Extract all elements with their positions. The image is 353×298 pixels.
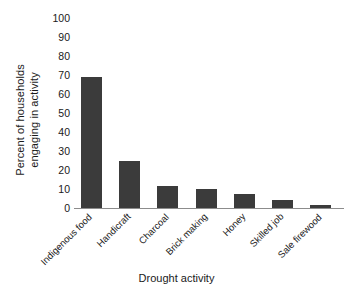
- y-axis-tick-label: 30: [44, 146, 70, 157]
- y-axis-tick-label: 90: [44, 32, 70, 43]
- y-axis-tick-label: 100: [44, 13, 70, 24]
- x-axis-tick-label: Handicraft: [95, 212, 132, 249]
- y-axis-tick-label: 10: [44, 184, 70, 195]
- x-axis-line: [74, 208, 344, 209]
- bar: [234, 194, 255, 208]
- plot-area: [74, 18, 342, 208]
- x-axis-title: Drought activity: [0, 272, 353, 284]
- y-axis-tick-label: 80: [44, 51, 70, 62]
- y-axis-title-line-1: Percent of households: [15, 64, 26, 176]
- bar: [272, 200, 293, 208]
- y-axis-tick-label: 40: [44, 127, 70, 138]
- x-axis-tick-label: Honey: [221, 212, 247, 238]
- y-axis-tick-label: 60: [44, 89, 70, 100]
- bar: [196, 189, 217, 208]
- y-axis-tick-label: 50: [44, 108, 70, 119]
- bar-chart: Percent of households engaging in activi…: [0, 0, 353, 298]
- y-axis-tick-label: 70: [44, 70, 70, 81]
- bar: [81, 77, 102, 208]
- x-axis-tick-labels: Indigenous foodHandicraftCharcoalBrick m…: [74, 210, 344, 268]
- x-axis-tick-label: Skilled job: [248, 212, 285, 249]
- bar: [157, 186, 178, 208]
- y-axis-tick-label: 0: [44, 203, 70, 214]
- x-axis-tick-label: Charcoal: [137, 212, 171, 246]
- bar: [119, 161, 140, 209]
- y-axis-title-line-2: engaging in activity: [29, 72, 40, 168]
- y-axis-tick-label: 20: [44, 165, 70, 176]
